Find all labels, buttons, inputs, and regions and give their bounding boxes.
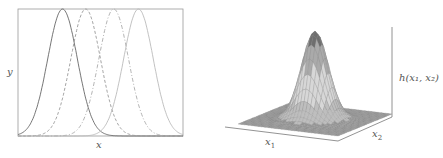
gaussian-surface-plot: h(x₁, x₂) x1 x2 <box>220 0 443 158</box>
curves-group <box>18 9 183 136</box>
curve-line <box>18 9 183 136</box>
curve-line <box>18 9 183 136</box>
x1-sub: 1 <box>271 142 275 150</box>
gaussian-curves-plot: y x <box>0 0 220 158</box>
curves-svg <box>0 0 220 158</box>
x1-axis-label: x1 <box>265 136 275 150</box>
x-axis-label: x <box>96 139 102 150</box>
y-axis-label: y <box>7 66 13 77</box>
curve-line <box>18 9 183 136</box>
plot-frame <box>18 9 183 136</box>
curve-line <box>18 9 183 136</box>
z-axis-label: h(x₁, x₂) <box>399 72 439 83</box>
x2-sub: 2 <box>378 134 382 142</box>
x2-axis-label: x2 <box>372 128 382 142</box>
surface-mesh <box>238 31 392 136</box>
